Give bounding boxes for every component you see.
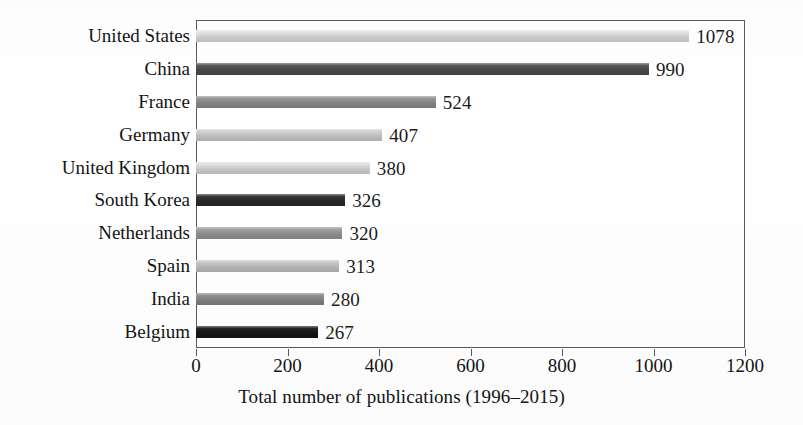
x-axis-tick-label: 400 [365,356,394,375]
bar [196,293,324,305]
bar-row: 990 [196,53,745,86]
bar-chart-figure: United StatesChinaFranceGermanyUnited Ki… [0,0,803,425]
bar [196,227,342,239]
x-axis-tick-label: 1000 [635,356,673,375]
bar-row: 380 [196,151,745,184]
bar-value-label: 1078 [696,27,734,46]
category-label-text: United States [88,26,190,45]
bar [196,129,382,141]
category-label-text: Germany [119,125,190,144]
bar [196,260,339,272]
bar-value-label: 380 [377,158,406,177]
bar-row: 313 [196,250,745,283]
bar-row: 280 [196,282,745,315]
bar-value-label: 267 [325,322,354,341]
category-label-text: Belgium [125,322,190,341]
bar-row: 267 [196,315,745,348]
bar-value-label: 280 [331,289,360,308]
bar-value-label: 320 [349,224,378,243]
bar-row: 524 [196,86,745,119]
bar [196,63,649,75]
bar-value-label: 313 [346,256,375,275]
x-axis-tick-label: 0 [191,356,201,375]
x-axis-title: Total number of publications (1996–2015) [0,386,803,408]
category-label-text: India [151,289,190,308]
bar-row: 1078 [196,20,745,53]
bar-value-label: 524 [443,92,472,111]
category-label-text: United Kingdom [62,158,190,177]
bar [196,326,318,338]
bar-value-label: 407 [389,125,418,144]
x-axis-tick-label: 800 [548,356,577,375]
category-label-text: China [145,59,190,78]
bar-value-label: 326 [352,191,381,210]
category-label-text: South Korea [94,190,190,209]
category-label-text: Netherlands [98,223,190,242]
bar [196,30,689,42]
bar-row: 320 [196,217,745,250]
category-label-text: France [138,92,190,111]
bar-row: 326 [196,184,745,217]
bar [196,162,370,174]
x-axis-tick-label: 1200 [726,356,764,375]
bar [196,194,345,206]
bar-value-label: 990 [656,60,685,79]
x-axis-tick-label: 200 [273,356,302,375]
bar [196,96,436,108]
category-label-text: Spain [147,256,190,275]
bar-row: 407 [196,118,745,151]
x-axis-tick-label: 600 [456,356,485,375]
